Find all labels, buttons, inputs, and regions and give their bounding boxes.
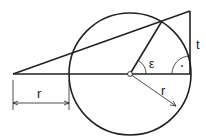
geometry-diagram xyxy=(0,0,206,136)
label-t: t xyxy=(196,38,200,51)
right-angle-arc xyxy=(172,56,190,74)
angle-epsilon-arc xyxy=(139,61,147,75)
right-angle-dot-icon xyxy=(181,65,183,67)
radius-arrow xyxy=(130,74,176,106)
label-r-radius: r xyxy=(161,84,165,97)
label-r-dim: r xyxy=(37,87,41,100)
label-epsilon: ε xyxy=(149,58,154,70)
center-point xyxy=(128,72,133,77)
radius-to-point xyxy=(130,21,162,74)
